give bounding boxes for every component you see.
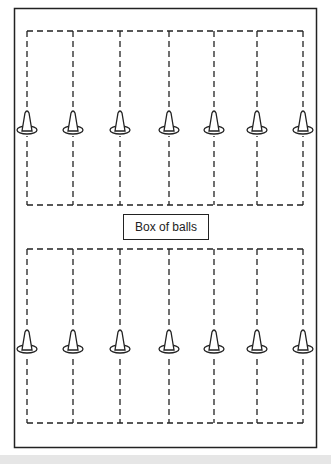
cone-icon	[246, 329, 268, 355]
cone-icon	[246, 110, 268, 136]
footer-strip	[0, 455, 331, 464]
cone-icon	[203, 329, 225, 355]
cone-icon	[62, 329, 84, 355]
cone-icon	[292, 110, 314, 136]
cone-icon	[16, 110, 38, 136]
cone-icon	[203, 110, 225, 136]
top-lane-group	[16, 31, 314, 205]
cone-icon	[62, 110, 84, 136]
cone-icon	[109, 110, 131, 136]
cone-icon	[292, 329, 314, 355]
box-of-balls: Box of balls	[123, 214, 209, 240]
cone-icon	[158, 110, 180, 136]
cone-icon	[158, 329, 180, 355]
cone-icon	[109, 329, 131, 355]
bottom-lane-group	[16, 249, 314, 423]
cone-icon	[16, 329, 38, 355]
